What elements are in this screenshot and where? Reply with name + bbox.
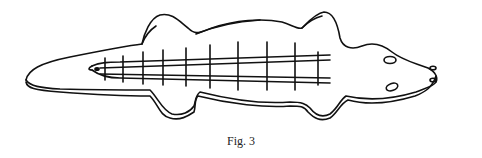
eye-lower (385, 82, 399, 93)
spine-tip-dot (95, 68, 99, 70)
eye-upper (384, 57, 396, 64)
nostril-upper (430, 66, 436, 70)
body-top-outline (26, 12, 437, 82)
spine-tip (89, 66, 92, 70)
body-bottom-outline (26, 80, 436, 116)
figure: Fig. 3 (0, 0, 482, 158)
hump-rim-mid (196, 20, 260, 34)
figure-caption: Fig. 3 (0, 134, 482, 149)
